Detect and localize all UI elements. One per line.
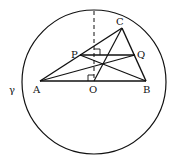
right-angle-marker-pq [94, 49, 100, 55]
geometry-diagram: C P Q A O B γ [0, 0, 176, 157]
label-B: B [143, 84, 150, 95]
label-gamma: γ [9, 84, 15, 95]
right-angle-marker-ab [88, 75, 94, 81]
label-O: O [89, 84, 97, 95]
label-P: P [71, 49, 78, 60]
label-Q: Q [137, 49, 145, 60]
circle-gamma [22, 10, 166, 154]
segment-AQ [40, 55, 135, 81]
label-A: A [32, 84, 41, 95]
label-C: C [116, 16, 124, 27]
